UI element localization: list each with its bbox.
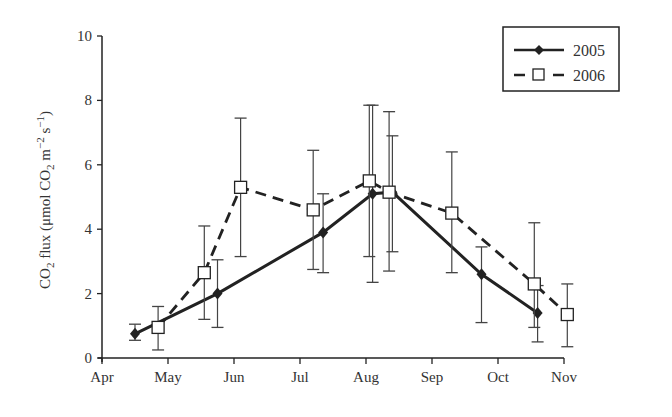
y-axis-label: CO2 flux (μmol CO2 m−2 s−1)	[34, 111, 56, 289]
square-marker-icon	[446, 207, 458, 219]
legend-label-2005: 2005	[573, 42, 605, 59]
square-marker-icon	[307, 204, 319, 216]
square-marker-icon	[561, 309, 573, 321]
legend: 2005 2006	[503, 27, 619, 91]
series-2005	[129, 105, 544, 342]
x-tick-label: Sep	[421, 369, 444, 385]
y-tick-label: 10	[77, 28, 92, 44]
y-axis-ticks: 0246810	[77, 28, 102, 366]
square-marker-icon	[363, 175, 375, 187]
square-marker-icon	[235, 181, 247, 193]
diamond-marker-icon	[213, 288, 223, 300]
co2-flux-chart: 0246810 AprMayJunJulAugSepOctNov CO2 flu…	[0, 0, 672, 417]
x-tick-label: Jun	[224, 369, 245, 385]
x-tick-label: Jul	[291, 369, 309, 385]
x-tick-label: May	[154, 369, 182, 385]
square-marker-icon	[383, 186, 395, 198]
square-marker-icon	[198, 267, 210, 279]
y-tick-label: 0	[85, 350, 93, 366]
x-axis-ticks: AprMayJunJulAugSepOctNov	[90, 358, 577, 385]
series-2006	[152, 105, 573, 350]
square-marker-icon	[528, 278, 540, 290]
data-series	[129, 105, 573, 350]
diamond-marker-icon	[130, 328, 140, 340]
y-tick-label: 8	[85, 92, 93, 108]
axes	[98, 36, 564, 362]
square-marker-icon	[152, 321, 164, 333]
y-tick-label: 2	[85, 286, 93, 302]
y-tick-label: 4	[85, 221, 93, 237]
x-tick-label: Aug	[353, 369, 379, 385]
x-tick-label: Oct	[487, 369, 509, 385]
x-tick-label: Apr	[90, 369, 113, 385]
y-tick-label: 6	[85, 157, 93, 173]
square-marker-icon	[533, 69, 544, 80]
legend-label-2006: 2006	[573, 67, 605, 84]
x-tick-label: Nov	[551, 369, 577, 385]
